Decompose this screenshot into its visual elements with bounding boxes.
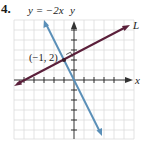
line-L-label: L bbox=[132, 19, 139, 31]
line-y-eq-neg2x bbox=[44, 20, 103, 136]
y-axis-label: y bbox=[69, 4, 75, 16]
point-label: (−1, 2) bbox=[29, 52, 58, 64]
x-axis-arrow-icon bbox=[125, 77, 133, 83]
problem-number: 4. bbox=[1, 1, 11, 16]
intersection-point bbox=[62, 58, 66, 62]
blue-line-label: y = −2x bbox=[27, 4, 64, 16]
axes bbox=[14, 26, 128, 139]
y-axis-arrow-icon bbox=[71, 21, 77, 29]
x-axis-label: x bbox=[134, 74, 140, 86]
graph-figure: 4. y = −2x y x bbox=[0, 0, 144, 145]
